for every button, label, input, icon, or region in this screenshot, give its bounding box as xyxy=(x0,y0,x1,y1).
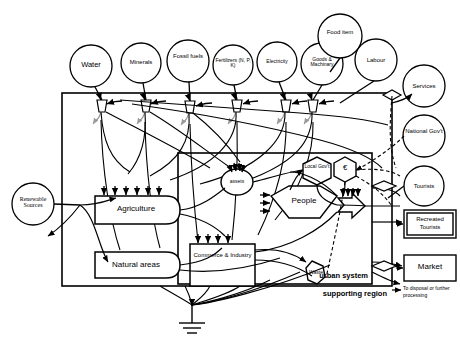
valve-6 xyxy=(308,100,318,112)
circle-services xyxy=(403,65,445,107)
box-recreated-tourists-inner xyxy=(407,213,453,235)
exchange-group xyxy=(372,90,401,271)
diagram-svg xyxy=(0,0,460,345)
agri-inflows xyxy=(104,186,159,195)
storage-waste xyxy=(306,261,325,284)
valve-1 xyxy=(97,100,107,112)
valve-5 xyxy=(281,100,291,112)
box-natural-areas xyxy=(95,252,180,278)
depreciation-group xyxy=(93,112,312,125)
box-commerce-industry xyxy=(190,244,255,286)
diagram-canvas: Water Minerals Fossil fuels Fertilizers … xyxy=(0,0,460,345)
valve-4 xyxy=(232,100,242,112)
circle-food-item xyxy=(318,14,362,58)
circle-water xyxy=(70,45,112,87)
circle-labour xyxy=(355,39,397,81)
circle-national-govt xyxy=(403,115,445,157)
people-inflows xyxy=(260,195,270,211)
storage-euro xyxy=(334,157,356,182)
circle-electricity xyxy=(257,42,297,82)
circle-fertilizers xyxy=(213,45,253,85)
circle-minerals xyxy=(121,43,161,83)
valve-3 xyxy=(185,101,195,113)
circle-tourists xyxy=(404,166,444,206)
storage-assets xyxy=(221,169,253,195)
ground-symbol xyxy=(179,305,205,333)
box-market xyxy=(404,255,456,281)
circle-fossil-fuels xyxy=(167,40,209,82)
circle-renewable-sources xyxy=(12,183,54,225)
